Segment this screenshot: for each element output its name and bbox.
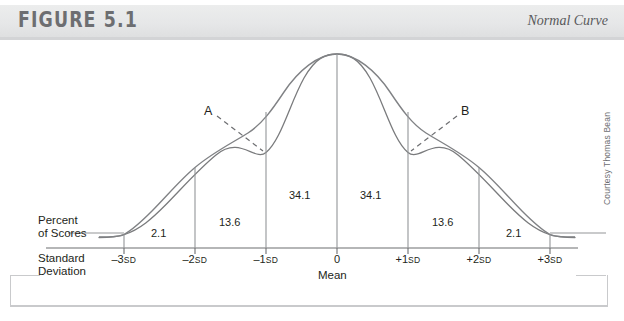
mean-label: Mean: [318, 269, 347, 281]
figure-root: FIGURE 5.1 Normal Curve: [0, 0, 624, 321]
band-value-mean-plus1: 34.1: [360, 189, 381, 201]
x-tick-unit-1: SD: [195, 255, 207, 265]
x-tick-value-6: +3: [538, 253, 551, 265]
x-tick-unit-4: SD: [408, 255, 420, 265]
band-value-plus2-plus3: 2.1: [506, 227, 521, 239]
callout-label-b: B: [461, 104, 469, 118]
standard-deviation-line1: Standard: [38, 252, 85, 264]
band-value-minus3-minus2: 2.1: [151, 227, 166, 239]
x-tick-label-1: –2SD: [183, 253, 208, 265]
x-tick-label-3: 0: [334, 253, 340, 265]
x-tick-label-4: +1SD: [396, 253, 421, 265]
band-dividers: [124, 54, 550, 248]
percent-of-scores-label: Percent of Scores: [38, 214, 87, 239]
figure-number-label: FIGURE 5.1: [18, 8, 138, 32]
percent-of-scores-line1: Percent: [38, 214, 78, 226]
x-tick-value-2: –1: [254, 253, 266, 265]
x-tick-unit-2: SD: [266, 255, 278, 265]
x-tick-value-4: +1: [396, 253, 409, 265]
callout-leader-a: [217, 116, 263, 151]
x-tick-value-3: 0: [334, 253, 340, 265]
x-tick-value-0: –3: [112, 253, 124, 265]
callout-label-a: A: [204, 104, 212, 118]
band-value-minus2-minus1: 13.6: [219, 216, 240, 228]
standard-deviation-line2: Deviation: [38, 265, 86, 277]
x-tick-value-1: –2: [183, 253, 195, 265]
x-tick-label-2: –1SD: [254, 253, 279, 265]
x-tick-unit-6: SD: [550, 255, 562, 265]
x-tick-unit-0: SD: [124, 255, 136, 265]
x-tick-unit-5: SD: [479, 255, 491, 265]
callout-leader-b: [411, 116, 457, 151]
x-tick-label-6: +3SD: [538, 253, 563, 265]
band-value-plus1-plus2: 13.6: [432, 216, 453, 228]
normal-curve-plot: [0, 40, 624, 280]
x-tick-value-5: +2: [467, 253, 480, 265]
x-tick-label-0: –3SD: [112, 253, 137, 265]
percent-of-scores-line2: of Scores: [38, 227, 87, 239]
figure-title: Normal Curve: [528, 13, 609, 29]
photo-credit: Courtesy Thomas Bean: [602, 95, 612, 205]
standard-deviation-label: Standard Deviation: [38, 252, 86, 277]
band-value-minus1-mean: 34.1: [289, 189, 310, 201]
x-tick-label-5: +2SD: [467, 253, 492, 265]
